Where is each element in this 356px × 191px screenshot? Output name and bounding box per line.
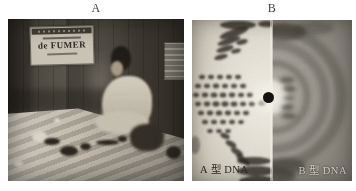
table-object [96, 140, 119, 145]
figure: A B de FUMER [0, 0, 356, 191]
dark-bag [130, 124, 164, 151]
sign-main-text: de FUMER [31, 39, 93, 52]
table-object [44, 138, 60, 145]
no-smoking-sign: de FUMER [30, 25, 95, 66]
beam-stop-dot [263, 92, 274, 103]
table-object [166, 146, 181, 159]
a-form-caption: A 型 DNA [200, 161, 249, 176]
bright-speck [14, 161, 23, 167]
panel-a-label: A [8, 1, 184, 16]
b-form-caption: B 型 DNA [298, 162, 347, 177]
small-wall-notice [164, 42, 184, 80]
panel-b-label: B [192, 1, 352, 16]
table-object [80, 143, 91, 150]
franklin-photo: de FUMER [8, 19, 184, 181]
person-face [111, 61, 123, 76]
bright-speck [54, 118, 60, 123]
bench-shadow [8, 89, 112, 111]
sign-header-band [32, 27, 92, 35]
xray-composite-photo: A 型 DNA B 型 DNA [192, 20, 352, 181]
sign-small-text-line-2 [47, 53, 77, 56]
table-object [118, 136, 127, 142]
table-object [60, 146, 78, 156]
